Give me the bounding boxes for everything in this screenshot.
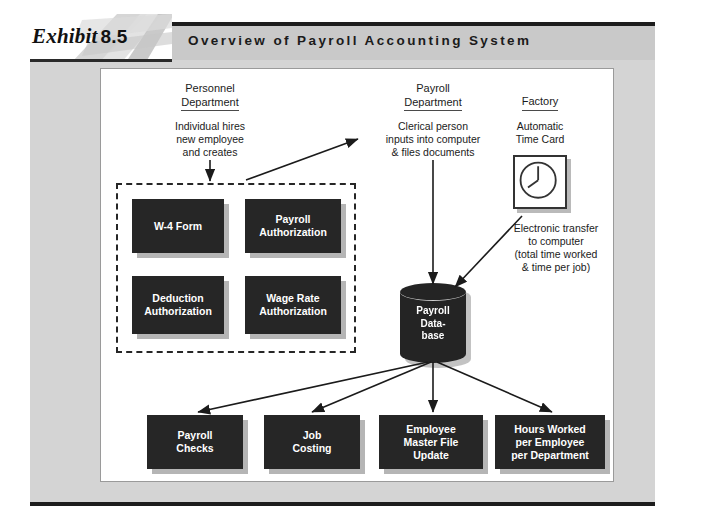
exhibit-underline — [30, 59, 172, 62]
exhibit-label: Exhibit8.5 — [32, 24, 128, 49]
payroll-heading-line2: Department — [404, 96, 461, 112]
note-transfer-line3: (total time worked — [515, 248, 598, 260]
payroll-auth-line1: Payroll — [275, 213, 310, 225]
document-box-w4-form-label: W-4 Form — [154, 220, 202, 233]
document-box-deduction-authorization: DeductionAuthorization — [132, 276, 224, 334]
document-box-wage-rate-authorization-label: Wage RateAuthorization — [259, 292, 327, 318]
document-box-wage-rate-authorization: Wage RateAuthorization — [245, 276, 341, 334]
output-box-hours-worked: Hours Workedper Employeeper Department — [495, 415, 605, 469]
note-factory: Automatic Time Card — [492, 120, 588, 146]
factory-heading-line1: Factory — [522, 95, 559, 111]
personnel-heading-line1: Personnel — [185, 82, 235, 94]
emf-line1: Employee — [406, 423, 456, 435]
note-payroll-line1: Clerical person — [398, 120, 468, 132]
document-box-payroll-authorization: PayrollAuthorization — [245, 199, 341, 253]
database-line2: Data- — [420, 318, 445, 329]
time-clock-icon — [513, 155, 567, 209]
hours-line1: Hours Worked — [514, 423, 586, 435]
payroll-database-cylinder: Payroll Data- base — [400, 283, 466, 363]
note-personnel-line3: and creates — [183, 146, 238, 158]
deduction-auth-line2: Authorization — [144, 305, 212, 317]
hours-line3: per Department — [511, 449, 589, 461]
output-box-job-costing-label: JobCosting — [292, 429, 331, 455]
exhibit-number: 8.5 — [101, 26, 128, 47]
database-line3: base — [422, 330, 445, 341]
column-heading-factory: Factory — [492, 95, 588, 111]
note-transfer-line2: to computer — [528, 235, 583, 247]
note-transfer-line1: Electronic transfer — [514, 222, 599, 234]
note-personnel: Individual hires new employee and create… — [142, 120, 278, 159]
job-costing-line2: Costing — [292, 442, 331, 454]
document-box-w4-form: W-4 Form — [132, 199, 224, 253]
plate-bottom-rule — [30, 502, 655, 506]
output-box-employee-master-file-update: EmployeeMaster FileUpdate — [379, 415, 483, 469]
hours-line2: per Employee — [516, 436, 585, 448]
note-electronic-transfer: Electronic transfer to computer (total t… — [497, 222, 615, 274]
wage-rate-line2: Authorization — [259, 305, 327, 317]
note-payroll-line3: & files documents — [392, 146, 475, 158]
document-box-payroll-authorization-label: PayrollAuthorization — [259, 213, 327, 239]
clock-face — [515, 157, 565, 207]
output-box-payroll-checks: PayrollChecks — [147, 415, 243, 469]
payroll-auth-line2: Authorization — [259, 226, 327, 238]
note-transfer-line4: & time per job) — [522, 261, 590, 273]
output-box-employee-master-file-update-label: EmployeeMaster FileUpdate — [404, 423, 459, 462]
exhibit-figure: Overview of Payroll Accounting System Ex… — [0, 0, 702, 532]
payroll-database-label: Payroll Data- base — [400, 305, 466, 343]
personnel-heading-line2: Department — [181, 96, 238, 112]
job-costing-line1: Job — [303, 429, 322, 441]
column-heading-payroll: Payroll Department — [373, 82, 493, 111]
exhibit-tab: Exhibit8.5 — [22, 14, 172, 62]
emf-line2: Master File — [404, 436, 459, 448]
output-box-hours-worked-label: Hours Workedper Employeeper Department — [511, 423, 589, 462]
note-payroll: Clerical person inputs into computer & f… — [358, 120, 508, 159]
wage-rate-line1: Wage Rate — [266, 292, 319, 304]
output-box-payroll-checks-label: PayrollChecks — [176, 429, 213, 455]
note-personnel-line2: new employee — [176, 133, 244, 145]
note-factory-line1: Automatic — [517, 120, 564, 132]
page-title: Overview of Payroll Accounting System — [188, 33, 531, 48]
payroll-heading-line1: Payroll — [416, 82, 450, 94]
database-line1: Payroll — [416, 305, 449, 316]
payroll-checks-line1: Payroll — [177, 429, 212, 441]
emf-line3: Update — [413, 449, 449, 461]
deduction-auth-line1: Deduction — [152, 292, 203, 304]
column-heading-personnel: Personnel Department — [150, 82, 270, 111]
document-box-deduction-authorization-label: DeductionAuthorization — [144, 292, 212, 318]
note-payroll-line2: inputs into computer — [386, 133, 481, 145]
note-personnel-line1: Individual hires — [175, 120, 245, 132]
exhibit-word: Exhibit — [32, 24, 98, 48]
payroll-checks-line2: Checks — [176, 442, 213, 454]
note-factory-line2: Time Card — [516, 133, 565, 145]
cylinder-top — [400, 283, 466, 301]
output-box-job-costing: JobCosting — [264, 415, 360, 469]
